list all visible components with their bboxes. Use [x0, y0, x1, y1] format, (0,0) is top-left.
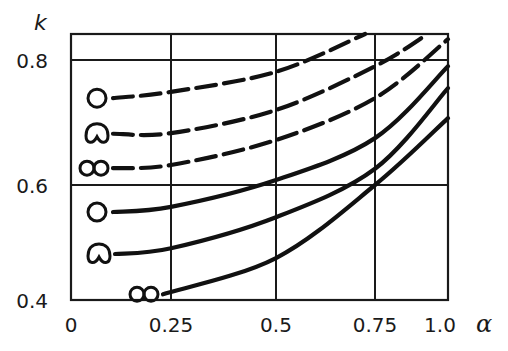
x-tick-label: 0.25: [149, 313, 194, 337]
circle-marker-icon: [88, 89, 106, 107]
x-axis-title: α: [476, 310, 492, 338]
y-axis-title: k: [34, 10, 48, 35]
y-tick-label: 0.4: [16, 289, 48, 313]
cardioid-marker-icon: [86, 124, 108, 143]
y-tick-label: 0.8: [16, 49, 48, 73]
circle-marker-icon: [88, 203, 106, 221]
series-line-2: [113, 34, 428, 135]
series-line-1: [113, 34, 365, 98]
double-circle-marker-icon: [80, 161, 108, 175]
x-tick-label: 0.5: [260, 313, 292, 337]
cardioid-marker-icon: [88, 244, 110, 263]
curve-markers: [80, 89, 158, 301]
x-tick-label: 0: [65, 313, 78, 337]
curves: [113, 34, 448, 294]
x-tick-label: 1.0: [424, 313, 456, 337]
y-tick-label: 0.6: [16, 174, 48, 198]
series-line-5: [115, 88, 448, 254]
chart: 00.250.50.751.00.40.60.8 k α: [0, 0, 508, 351]
x-tick-label: 0.75: [353, 313, 398, 337]
